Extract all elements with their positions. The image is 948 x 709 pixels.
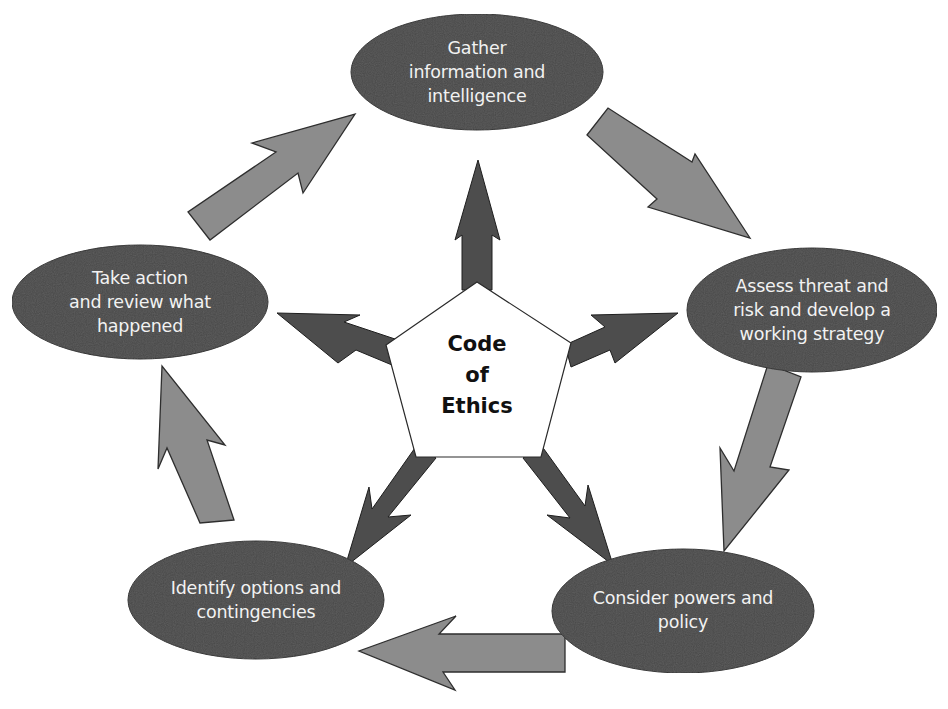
node-take-action-label: Take action and review what happened xyxy=(30,252,250,352)
node-gather-label: Gather information and intelligence xyxy=(367,22,587,122)
cycle-arrow-consider-to-identify xyxy=(359,616,565,690)
hub-arrow-to-gather xyxy=(455,160,500,290)
center-label: Code of Ethics xyxy=(417,320,537,430)
cycle-arrow-gather-to-assess xyxy=(587,108,750,238)
hub-arrow-to-assess xyxy=(565,313,678,367)
hub-arrow-to-consider xyxy=(523,445,613,565)
cycle-arrow-identify-to-take-action xyxy=(158,366,234,523)
cycle-arrow-take-action-to-gather xyxy=(188,114,355,240)
cycle-arrow-assess-to-consider xyxy=(720,364,801,551)
hub-arrow-to-take-action xyxy=(277,313,395,365)
node-consider-label: Consider powers and policy xyxy=(568,570,798,650)
hub-arrow-to-identify xyxy=(345,445,436,567)
node-assess-label: Assess threat and risk and develop a wor… xyxy=(700,260,924,360)
node-identify-label: Identify options and contingencies xyxy=(140,560,372,640)
